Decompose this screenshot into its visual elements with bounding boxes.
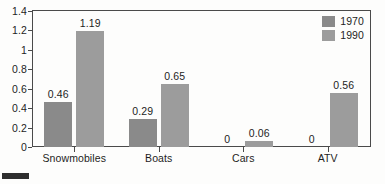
bar-value-label: 0.46 <box>48 88 69 100</box>
y-tick-label: 0.6 <box>12 83 27 95</box>
x-tick-label: ATV <box>318 152 338 164</box>
bar-value-label: 0 <box>224 133 230 145</box>
y-tick-label: 1.2 <box>12 24 27 36</box>
chart-screenshot: 00.20.40.60.811.21.4 19701990 0.461.190.… <box>0 0 385 184</box>
plot-area: 0.461.190.290.6500.0600.56 <box>32 11 370 147</box>
y-axis: 00.20.40.60.811.21.4 <box>0 10 27 147</box>
bar-value-label: 0.56 <box>333 79 354 91</box>
bar-value-label: 0.65 <box>164 70 185 82</box>
y-tick-label: 0 <box>21 141 27 153</box>
x-axis: SnowmobilesBoatsCarsATV <box>32 152 371 170</box>
bar-1990-atv <box>330 93 358 147</box>
y-tick-label: 0.8 <box>12 63 27 75</box>
bar-value-label: 1.19 <box>80 17 101 29</box>
bar-value-label: 0 <box>309 133 315 145</box>
y-tick-label: 0.2 <box>12 122 27 134</box>
scan-marker <box>2 173 29 179</box>
bar-1970-boats <box>129 119 157 147</box>
bar-value-label: 0.06 <box>249 127 270 139</box>
bar-1970-snowmobiles <box>44 102 72 147</box>
bar-1990-boats <box>161 84 189 147</box>
y-tick-label: 0.4 <box>12 102 27 114</box>
x-tick-label: Boats <box>145 152 172 164</box>
bar-value-label: 0.29 <box>132 105 153 117</box>
y-tick-label: 1 <box>21 44 27 56</box>
bar-1990-snowmobiles <box>76 31 104 147</box>
x-tick-label: Snowmobiles <box>42 152 106 164</box>
y-tick-label: 1.4 <box>12 5 27 17</box>
x-tick-label: Cars <box>232 152 255 164</box>
